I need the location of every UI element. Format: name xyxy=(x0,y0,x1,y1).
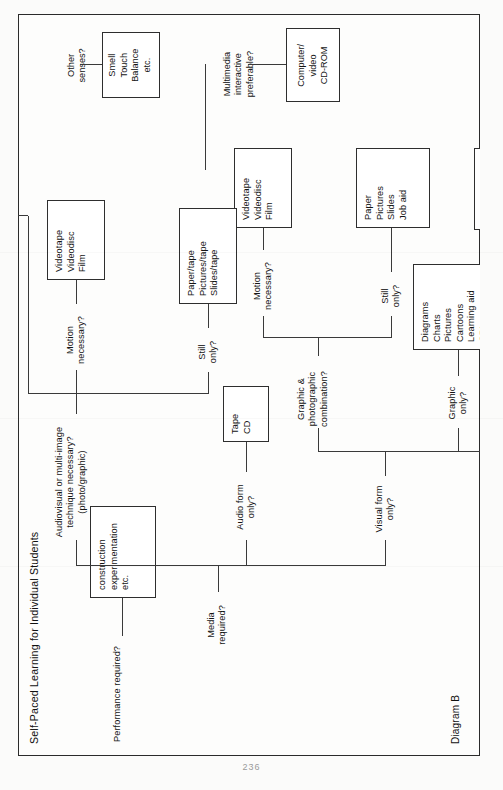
node-audiovisual: Audiovisual or multi-image technique nec… xyxy=(54,414,88,550)
connector-media-to-visual xyxy=(385,540,386,566)
connector-visual-to-graphic xyxy=(458,428,459,452)
box-audio-outcomes: Tape CD xyxy=(223,386,269,442)
connector-graphic-to-outcomes xyxy=(458,350,459,376)
connector-visual-spine xyxy=(318,451,480,452)
flowchart-canvas: Self-Paced Learning for Individual Stude… xyxy=(18,14,480,756)
node-visual-form-only: Visual form only? xyxy=(374,476,397,542)
connector-performance-to-outcomes xyxy=(122,598,123,636)
node-graphic-only: Graphic only? xyxy=(447,376,470,430)
page-number: 236 xyxy=(0,762,503,772)
connector-combination-spine-stub xyxy=(318,338,319,356)
connector-combo-motion-to-outcomes xyxy=(263,228,264,250)
node-av-still: Still only? xyxy=(197,328,220,376)
connector-audiovisual-spine xyxy=(28,393,208,394)
diagram-viewport: Self-Paced Learning for Individual Stude… xyxy=(18,14,480,756)
box-graphic-outcomes: Diagrams Charts Pictures Cartoons Learni… xyxy=(413,264,480,350)
node-combo-motion: Motion necessary? xyxy=(252,250,275,322)
connector-combo-still-to-outcomes xyxy=(391,228,392,272)
connector-visual-spine-stub xyxy=(385,452,386,476)
box-combo-motion-outcomes: Videotape Videodisc Film xyxy=(234,148,292,228)
connector-media-spine-stub xyxy=(218,566,219,592)
scanned-page: Self-Paced Learning for Individual Stude… xyxy=(0,0,503,790)
connector-media-to-audio xyxy=(246,540,247,566)
box-combo-still-outcomes: Paper Pictures Slides Job aid xyxy=(356,148,430,228)
diagram-caption: Diagram B xyxy=(450,695,461,744)
node-audio-form-only: Audio form only? xyxy=(235,472,258,542)
node-av-motion: Motion necessary? xyxy=(65,304,88,376)
box-av-motion-outcomes: Videotape Videodisc Film xyxy=(47,200,105,280)
connector-media-spine xyxy=(76,565,386,566)
node-graphic-photo-combination: Graphic & photographic combination? xyxy=(296,356,330,442)
box-av-still-outcomes: Paper/tape Pictures/tape Slides/tape xyxy=(179,208,237,304)
connector-audiovisual-to-multimedia-rail xyxy=(28,216,29,394)
node-combo-still: Still only? xyxy=(380,272,403,320)
connector-combination-spine xyxy=(263,337,391,338)
box-performance-outcomes: construction experimentation etc. xyxy=(90,506,156,598)
connector-audio-to-outcomes xyxy=(246,442,247,472)
node-media-required: Media required? xyxy=(206,592,229,658)
connector-av-motion-to-outcomes xyxy=(76,280,77,304)
connector-av-still-to-outcomes xyxy=(208,304,209,328)
node-performance-required: Performance required? xyxy=(112,622,123,742)
page-title: Self-Paced Learning for Individual Stude… xyxy=(28,532,40,744)
connector-audiovisual-spine-stub xyxy=(76,394,77,414)
box-photographic-motion-outcomes: Videotape Videodisc Film xyxy=(474,148,480,230)
connector-multimedia-riser xyxy=(18,215,28,216)
